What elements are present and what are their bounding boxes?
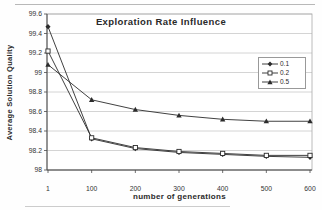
- y-tick-label: 98.2: [29, 147, 42, 154]
- triangle-legend-icon: [262, 78, 278, 86]
- chart: 99.699.499.29998.898.698.498.29811002003…: [0, 0, 322, 210]
- square-marker-icon: [264, 153, 268, 157]
- square-marker-icon: [177, 149, 181, 153]
- legend-label: 0.5: [280, 78, 289, 86]
- x-tick-label: 200: [130, 185, 142, 192]
- y-tick-label: 99.4: [29, 30, 42, 37]
- y-tick-label: 99.2: [29, 49, 42, 56]
- x-tick-label: 400: [217, 185, 229, 192]
- square-marker-icon: [308, 153, 312, 157]
- x-tick-label: 500: [261, 185, 273, 192]
- y-tick-label: 98.6: [29, 108, 42, 115]
- y-tick-label: 98.4: [29, 127, 42, 134]
- diamond-legend-icon: [262, 60, 278, 68]
- square-marker-icon: [221, 151, 225, 155]
- square-marker-icon: [90, 136, 94, 140]
- x-tick-label: 600: [304, 185, 316, 192]
- legend-label: 0.1: [280, 60, 289, 68]
- x-tick-label: 300: [173, 185, 185, 192]
- legend-label: 0.2: [280, 69, 289, 77]
- square-marker-icon: [46, 49, 50, 53]
- x-axis-title: number of generations: [47, 192, 312, 201]
- square-legend-icon: [262, 69, 278, 77]
- chart-title: Exploration Rate Influence: [0, 16, 322, 27]
- y-tick-label: 99: [34, 69, 42, 76]
- chart-canvas: 99.699.499.29998.898.698.498.29811002003…: [0, 0, 322, 210]
- y-tick-label: 98.8: [29, 88, 42, 95]
- square-marker-icon: [133, 145, 137, 149]
- legend-item-0.2: 0.2: [262, 69, 302, 77]
- x-tick-label: 100: [86, 185, 98, 192]
- y-tick-label: 98: [34, 166, 42, 173]
- legend-item-0.1: 0.1: [262, 60, 302, 68]
- legend-item-0.5: 0.5: [262, 78, 302, 86]
- x-tick-label: 1: [46, 185, 50, 192]
- legend: 0.10.20.5: [258, 57, 306, 89]
- y-axis-title: Average Solution Quality: [5, 18, 14, 168]
